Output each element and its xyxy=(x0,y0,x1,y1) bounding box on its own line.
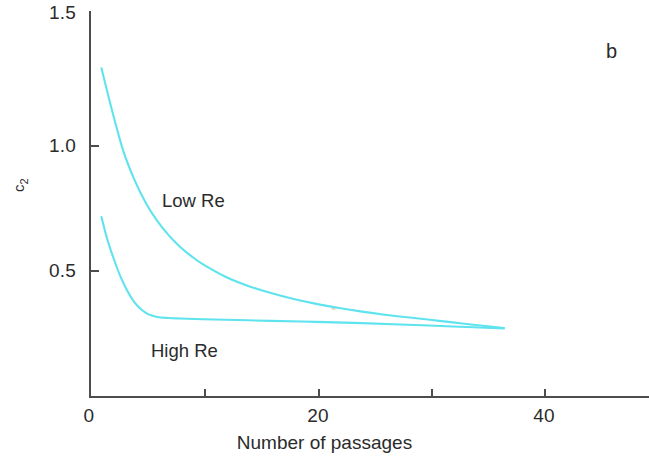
y-ticklabel-1-5: 1.5 xyxy=(14,2,76,24)
x-tick-30 xyxy=(431,389,433,397)
x-ticklabel-40: 40 xyxy=(524,405,564,427)
x-ticklabel-0: 0 xyxy=(69,405,109,427)
x-axis-title: Number of passages xyxy=(0,432,649,454)
y-axis-title-text: c xyxy=(10,185,27,193)
x-tick-40 xyxy=(544,389,546,397)
y-tick-1-0 xyxy=(89,145,99,147)
panel-label-b: b xyxy=(606,40,617,63)
y-ticklabel-1-0: 1.0 xyxy=(14,135,76,157)
x-tick-10 xyxy=(204,389,206,397)
annotation-high-re: High Re xyxy=(151,340,218,362)
y-axis-title-subscript: 2 xyxy=(18,178,30,184)
figure-panel-b: 1.5 1.0 0.5 0 20 40 c2 Number of passage… xyxy=(0,0,649,464)
scan-speck xyxy=(331,306,336,310)
y-axis-title: c2 xyxy=(10,178,30,192)
y-tick-0-5 xyxy=(89,270,99,272)
y-axis-line xyxy=(89,11,91,398)
x-axis-line xyxy=(89,396,649,398)
curves-layer xyxy=(0,0,649,464)
y-ticklabel-0-5: 0.5 xyxy=(14,260,76,282)
x-ticklabel-20: 20 xyxy=(298,405,338,427)
x-tick-20 xyxy=(318,389,320,397)
curve-high-re xyxy=(102,217,504,328)
annotation-low-re: Low Re xyxy=(162,190,225,212)
